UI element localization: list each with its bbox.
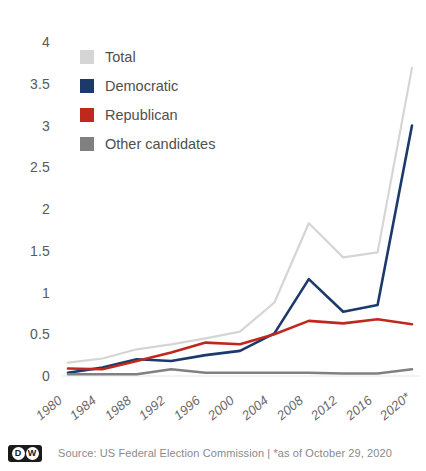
- series-line-other-candidates: [68, 369, 412, 374]
- legend-item[interactable]: Democratic: [80, 71, 215, 100]
- chart-footer: D W Source: US Federal Election Commissi…: [0, 435, 426, 471]
- legend-item-label: Republican: [105, 107, 178, 123]
- legend-swatch-icon: [80, 79, 94, 93]
- legend-swatch-icon: [80, 137, 94, 151]
- legend-swatch-icon: [80, 50, 94, 64]
- dw-logo-letter-d: D: [12, 447, 25, 460]
- y-axis-tick-label: 4: [8, 34, 50, 50]
- legend-item-label: Democratic: [105, 78, 178, 94]
- y-axis-tick-label: 3: [8, 118, 50, 134]
- y-axis-tick-label: 2.5: [8, 159, 50, 175]
- legend-item-label: Other candidates: [105, 136, 215, 152]
- dw-logo-letter-w: W: [26, 447, 39, 460]
- y-axis-tick-label: 0: [8, 368, 50, 384]
- y-axis-tick-label: 3.5: [8, 76, 50, 92]
- series-line-republican: [68, 319, 412, 369]
- legend-item[interactable]: Total: [80, 42, 215, 71]
- source-note: Source: US Federal Election Commission |…: [58, 447, 392, 459]
- dw-logo-icon: D W: [8, 445, 42, 462]
- y-axis-tick-label: 1.5: [8, 243, 50, 259]
- legend-swatch-icon: [80, 108, 94, 122]
- legend-item[interactable]: Other candidates: [80, 129, 215, 158]
- y-axis-tick-label: 0.5: [8, 326, 50, 342]
- series-line-democratic: [68, 126, 412, 373]
- y-axis-tick-label: 1: [8, 285, 50, 301]
- legend-item[interactable]: Republican: [80, 100, 215, 129]
- legend-item-label: Total: [105, 49, 136, 65]
- chart-legend: TotalDemocraticRepublicanOther candidate…: [80, 42, 215, 158]
- chart-figure: 00.511.522.533.54 1980198419881992199620…: [0, 0, 426, 471]
- y-axis-tick-label: 2: [8, 201, 50, 217]
